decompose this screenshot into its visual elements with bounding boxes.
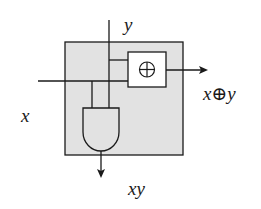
- output-label-xor: x⊕y: [202, 83, 236, 104]
- and-gate: [83, 108, 119, 151]
- logic-diagram: y x x⊕y xy: [0, 0, 261, 209]
- input-label-x: x: [20, 105, 30, 126]
- output-label-and: xy: [127, 178, 145, 199]
- input-label-y: y: [122, 14, 133, 35]
